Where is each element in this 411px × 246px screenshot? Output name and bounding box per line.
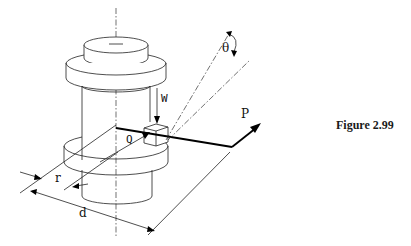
- lever-arm: [116, 123, 261, 147]
- figure-2-99: W Q P θ: [0, 0, 411, 246]
- label-theta: θ: [222, 41, 229, 55]
- label-q: Q: [126, 133, 133, 146]
- label-d: d: [79, 206, 87, 220]
- force-w-arrow: [154, 88, 160, 124]
- theta-construction-lines: [166, 31, 250, 140]
- top-cap-cylinder: [84, 37, 148, 66]
- label-r: r: [55, 171, 61, 185]
- label-w: W: [161, 92, 168, 105]
- label-p: P: [241, 107, 249, 121]
- figure-caption: Figure 2.99: [336, 118, 394, 133]
